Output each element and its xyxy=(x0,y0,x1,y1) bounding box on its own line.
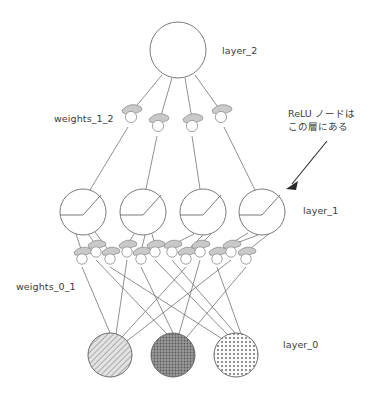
weight-knob xyxy=(122,105,142,123)
layer-1-node xyxy=(60,189,106,235)
layer-0-node xyxy=(214,333,258,377)
layer-1-node xyxy=(239,189,285,235)
weight-knob xyxy=(209,247,227,264)
layer-1-node xyxy=(120,189,166,235)
layer-2-node xyxy=(150,22,206,78)
weights-1-2-group xyxy=(122,105,232,132)
weight-knob xyxy=(147,240,165,257)
label-layer-2: layer_2 xyxy=(222,45,257,56)
weight-knob xyxy=(74,247,92,264)
layer-1-node xyxy=(180,189,226,235)
annotation-line-2: この層にある xyxy=(288,121,348,132)
label-weights-0-1: weights_0_1 xyxy=(16,281,76,292)
edges-weights12-to-layer2 xyxy=(133,75,220,119)
weight-knob xyxy=(192,240,210,257)
weight-knob xyxy=(102,247,120,264)
weight-knob xyxy=(133,247,151,264)
layer-1-nodes-group xyxy=(60,189,285,235)
weight-knob xyxy=(212,105,232,123)
weight-knob xyxy=(183,114,203,132)
layer-0-node xyxy=(88,333,132,377)
annotation-arrow xyxy=(286,141,327,190)
edges-layer0-to-weights01 xyxy=(82,260,246,341)
weight-knob xyxy=(178,247,196,264)
label-layer-0: layer_0 xyxy=(283,339,318,350)
weight-knob xyxy=(223,240,241,257)
weight-knob xyxy=(238,247,256,264)
neural-network-diagram: layer_2 layer_1 layer_0 weights_1_2 weig… xyxy=(0,0,371,397)
weight-knob xyxy=(149,114,169,132)
arrow-head-icon xyxy=(286,181,298,190)
label-layer-1: layer_1 xyxy=(303,205,338,216)
layer-0-nodes-group xyxy=(88,333,258,377)
layer-0-node xyxy=(151,333,195,377)
diagram-canvas: layer_2 layer_1 layer_0 weights_1_2 weig… xyxy=(0,0,371,397)
label-weights-1-2: weights_1_2 xyxy=(54,113,114,124)
annotation-line-1: ReLU ノードは xyxy=(288,108,355,119)
layer-2-node-group xyxy=(150,22,206,78)
weights-0-1-group xyxy=(74,240,256,264)
edges-layer1-to-weights12 xyxy=(90,127,255,190)
